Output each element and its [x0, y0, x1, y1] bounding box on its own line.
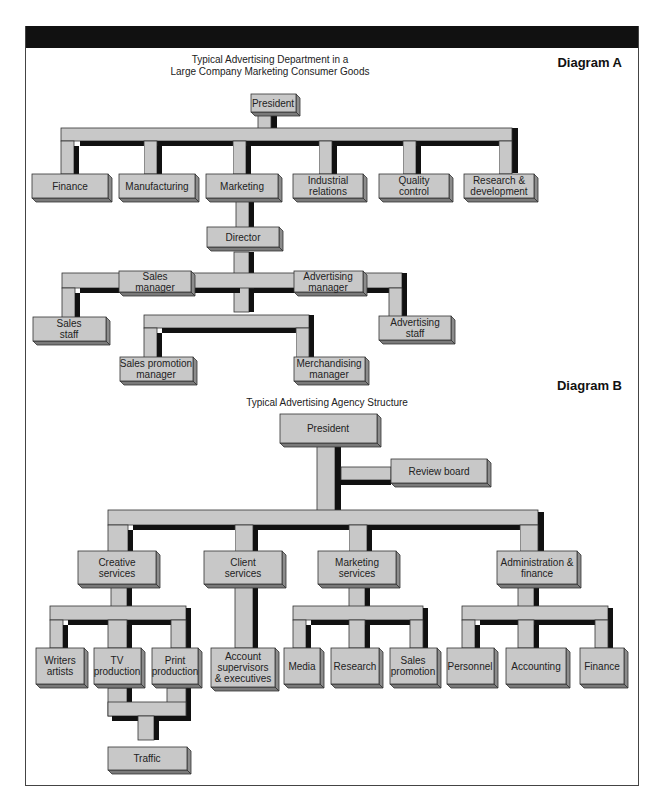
svg-text:Director: Director — [225, 232, 261, 243]
svg-text:Personnel: Personnel — [447, 661, 492, 672]
node-b-traffic: Traffic — [108, 747, 191, 774]
svg-text:development: development — [470, 186, 527, 197]
svg-text:Accounting: Accounting — [511, 661, 560, 672]
diagram-a-label: Diagram A — [557, 55, 622, 70]
svg-text:Administration &: Administration & — [501, 557, 574, 568]
svg-text:Sales promotion: Sales promotion — [120, 358, 192, 369]
svg-text:Media: Media — [288, 661, 316, 672]
svg-text:staff: staff — [60, 329, 79, 340]
svg-text:Industrial: Industrial — [308, 175, 349, 186]
node-b-marketing-services: Marketing services — [318, 551, 400, 588]
node-a-sales-manager: Sales manager — [119, 271, 195, 296]
svg-text:President: President — [307, 423, 349, 434]
node-a-marketing: Marketing — [206, 174, 282, 202]
svg-text:Advertising: Advertising — [390, 317, 439, 328]
svg-text:relations: relations — [309, 186, 347, 197]
svg-text:manager: manager — [136, 369, 176, 380]
diagram-a-title-line2: Large Company Marketing Consumer Goods — [171, 66, 370, 77]
svg-text:services: services — [339, 568, 376, 579]
svg-text:Sales: Sales — [56, 318, 81, 329]
node-b-account-supervisors: Account supervisors & executives — [211, 648, 279, 691]
diagram-b-label: Diagram B — [557, 378, 622, 393]
svg-text:production: production — [152, 666, 199, 677]
node-a-quality-control: Quality control — [379, 174, 453, 202]
node-a-advertising-staff: Advertising staff — [379, 316, 455, 344]
svg-text:manager: manager — [308, 282, 348, 293]
svg-text:Finance: Finance — [584, 661, 620, 672]
node-b-finance: Finance — [580, 648, 628, 688]
node-b-sales-promotion: Sales promotion — [390, 648, 441, 688]
svg-text:Traffic: Traffic — [133, 753, 160, 764]
node-b-client-services: Client services — [204, 551, 286, 588]
svg-text:promotion: promotion — [391, 666, 435, 677]
svg-text:Client: Client — [230, 557, 256, 568]
node-b-print-production: Print production — [152, 648, 202, 688]
diagram-b-connectors — [50, 444, 613, 740]
node-b-writers-artists: Writers artists — [36, 648, 88, 688]
node-b-personnel: Personnel — [447, 648, 498, 688]
svg-text:services: services — [99, 568, 136, 579]
node-b-administration-finance: Administration & finance — [497, 551, 581, 588]
node-b-president: President — [280, 414, 381, 447]
node-a-research-development: Research & development — [464, 174, 538, 202]
svg-text:President: President — [252, 98, 294, 109]
svg-text:Research &: Research & — [473, 175, 526, 186]
node-a-director: Director — [207, 227, 283, 251]
node-b-creative-services: Creative services — [78, 551, 160, 588]
node-a-merchandising-manager: Merchandising manager — [294, 357, 369, 385]
svg-text:production: production — [94, 666, 141, 677]
svg-text:Creative: Creative — [98, 557, 136, 568]
svg-text:services: services — [225, 568, 262, 579]
svg-text:Marketing: Marketing — [335, 557, 379, 568]
diagram-b-title: Typical Advertising Agency Structure — [246, 397, 408, 408]
svg-text:Quality: Quality — [398, 175, 429, 186]
org-charts: Diagram A Typical Advertising Department… — [0, 0, 661, 812]
svg-text:Advertising: Advertising — [303, 271, 352, 282]
node-b-accounting: Accounting — [506, 648, 570, 688]
node-a-president: President — [251, 94, 300, 116]
diagram-a-title-line1: Typical Advertising Department in a — [192, 54, 349, 65]
svg-text:& executives: & executives — [215, 673, 272, 684]
node-a-sales-promotion-manager: Sales promotion manager — [120, 357, 197, 385]
svg-text:control: control — [399, 186, 429, 197]
svg-text:Print: Print — [165, 655, 186, 666]
svg-text:manager: manager — [135, 282, 175, 293]
svg-text:supervisors: supervisors — [217, 662, 268, 673]
node-a-manufacturing: Manufacturing — [119, 174, 199, 202]
node-b-review-board: Review board — [391, 459, 491, 487]
svg-text:Manufacturing: Manufacturing — [125, 181, 188, 192]
svg-text:Finance: Finance — [52, 181, 88, 192]
node-b-research: Research — [331, 648, 383, 688]
svg-text:Writers: Writers — [44, 655, 75, 666]
svg-text:Sales: Sales — [400, 655, 425, 666]
svg-text:Account: Account — [225, 651, 261, 662]
svg-text:staff: staff — [406, 328, 425, 339]
svg-text:finance: finance — [521, 568, 554, 579]
node-a-finance: Finance — [32, 174, 112, 202]
svg-text:TV: TV — [111, 655, 124, 666]
node-b-tv-production: TV production — [94, 648, 145, 688]
svg-text:Review board: Review board — [408, 466, 469, 477]
svg-text:manager: manager — [309, 369, 349, 380]
svg-text:Marketing: Marketing — [220, 181, 264, 192]
svg-text:Research: Research — [334, 661, 377, 672]
svg-text:Sales: Sales — [142, 271, 167, 282]
node-b-media: Media — [284, 648, 324, 688]
node-a-industrial-relations: Industrial relations — [293, 174, 367, 202]
node-a-advertising-manager: Advertising manager — [294, 271, 367, 296]
svg-text:artists: artists — [47, 666, 74, 677]
node-a-sales-staff: Sales staff — [33, 317, 110, 345]
svg-text:Merchandising: Merchandising — [296, 358, 361, 369]
